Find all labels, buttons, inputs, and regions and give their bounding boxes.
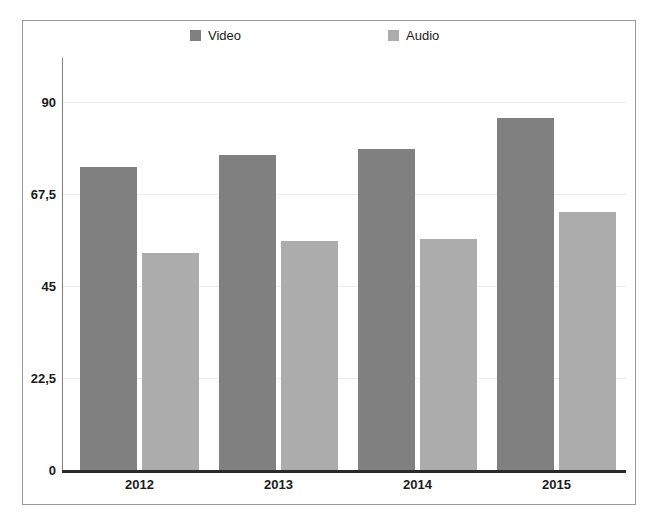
x-axis-tick-label-2013: 2013 xyxy=(264,477,293,492)
bar-audio-2012[interactable] xyxy=(142,253,199,470)
x-axis-tick-label-2015: 2015 xyxy=(542,477,571,492)
bar-video-2013[interactable] xyxy=(219,155,276,470)
bar-audio-2015[interactable] xyxy=(559,212,616,470)
x-axis-tick-label-2014: 2014 xyxy=(403,477,432,492)
bar-audio-2014[interactable] xyxy=(420,239,477,470)
x-axis-tick-label-2012: 2012 xyxy=(125,477,154,492)
bar-audio-2013[interactable] xyxy=(281,241,338,470)
bar-video-2015[interactable] xyxy=(497,118,554,470)
bar-video-2012[interactable] xyxy=(80,167,137,470)
bars-layer xyxy=(0,0,651,518)
bar-chart-figure: Video Audio 022,54567,590 20122013201420… xyxy=(0,0,651,518)
bar-video-2014[interactable] xyxy=(358,149,415,470)
x-axis-tick-labels: 2012201320142015 xyxy=(0,477,651,499)
